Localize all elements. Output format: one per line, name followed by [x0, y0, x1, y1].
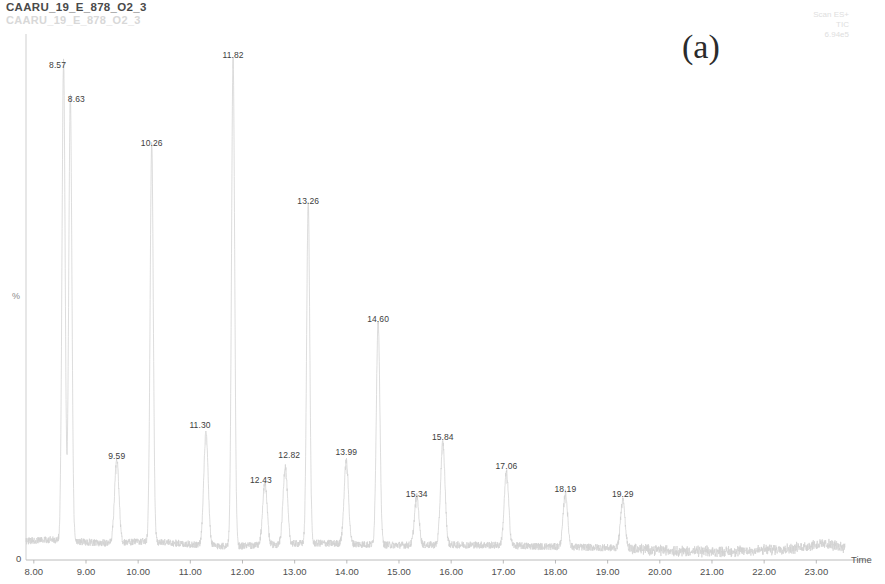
x-tick-11-00: 11.00 [179, 566, 202, 577]
peak-label-17-06: 17.06 [496, 461, 518, 471]
y-axis-origin-tick: 0 [16, 553, 21, 564]
x-tick-8-00: 8.00 [25, 566, 44, 577]
x-tick-22-00: 22.00 [752, 566, 776, 577]
peak-label-13-99: 13.99 [335, 447, 357, 457]
axis-ticks [34, 560, 816, 564]
x-tick-14-00: 14.00 [335, 566, 359, 577]
x-tick-18-00: 18.00 [544, 566, 568, 577]
peak-label-13-26: 13.26 [297, 196, 319, 206]
peak-label-15-34: 15.34 [406, 489, 428, 499]
chromatogram-plot [0, 0, 885, 584]
peak-label-11-30: 11.30 [189, 420, 210, 430]
x-tick-23-00: 23.00 [804, 566, 828, 577]
x-tick-15-00: 15.00 [387, 566, 411, 577]
peak-label-14-60: 14.60 [367, 314, 389, 324]
x-tick-19-00: 19.00 [596, 566, 620, 577]
x-tick-12-00: 12.00 [231, 566, 255, 577]
x-tick-17-00: 17.00 [491, 566, 515, 577]
peak-label-9-59: 9.59 [108, 451, 125, 461]
x-tick-9-00: 9.00 [77, 566, 96, 577]
y-axis-label: % [12, 291, 20, 301]
axis-lines [26, 34, 870, 560]
peak-label-19-29: 19.29 [612, 489, 634, 499]
peak-label-15-84: 15.84 [432, 432, 454, 442]
x-tick-21-00: 21.00 [700, 566, 724, 577]
chromatogram-svg [0, 0, 885, 584]
x-tick-16-00: 16.00 [439, 566, 463, 577]
x-tick-10-00: 10.00 [126, 566, 150, 577]
x-tick-20-00: 20.00 [648, 566, 672, 577]
peak-label-18-19: 18.19 [555, 484, 577, 494]
peak-label-11-82: 11.82 [223, 50, 244, 60]
peak-label-8-63: 8.63 [68, 94, 85, 104]
peak-label-12-43: 12.43 [250, 475, 272, 485]
x-tick-13-00: 13.00 [283, 566, 307, 577]
peak-leader-ticks [64, 60, 623, 508]
peak-label-12-82: 12.82 [278, 450, 300, 460]
peak-label-10-26: 10.26 [141, 138, 163, 148]
tic-trace [26, 57, 845, 557]
x-axis-title: Time [851, 554, 872, 565]
peak-label-8-57: 8.57 [49, 60, 66, 70]
